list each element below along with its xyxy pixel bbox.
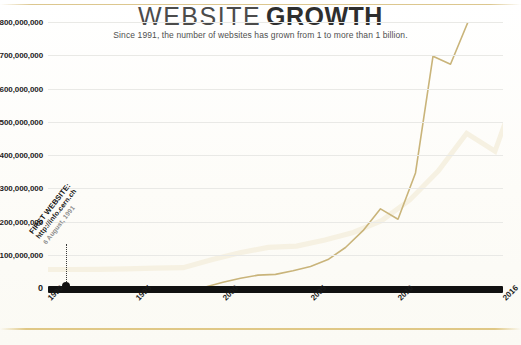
y-axis-tick-label: 100,000,000 <box>0 250 43 259</box>
y-axis-tick-label: 500,000,000 <box>0 117 43 126</box>
y-axis-tick-label: 0 <box>38 283 43 293</box>
chart-plot-area: 0100,000,000200,000,000300,000,000400,00… <box>48 22 503 288</box>
y-axis-tick-label: 600,000,000 <box>0 84 43 93</box>
annotation-leader-line <box>66 244 67 286</box>
first-website-marker-dot <box>62 282 70 290</box>
gridline <box>48 122 503 123</box>
y-axis-tick-label: 800,000,000 <box>0 18 43 27</box>
infographic-canvas: WEBSITE GROWTH Since 1991, the number of… <box>0 0 521 345</box>
x-axis-tick-label: 2016 <box>501 283 520 302</box>
gridline <box>48 89 503 90</box>
y-axis-tick-label: 300,000,000 <box>0 184 43 193</box>
gridline <box>48 155 503 156</box>
gridline <box>48 255 503 256</box>
y-axis-tick-label: 400,000,000 <box>0 151 43 160</box>
gridline <box>48 22 503 23</box>
gridline <box>48 55 503 56</box>
y-axis-tick-label: 700,000,000 <box>0 51 43 60</box>
first-website-annotation: FIRST WEBSITE: http://info.cern.ch 6 Aug… <box>48 186 118 246</box>
x-axis-bar <box>48 286 503 293</box>
bottom-frame-rule <box>0 328 521 330</box>
